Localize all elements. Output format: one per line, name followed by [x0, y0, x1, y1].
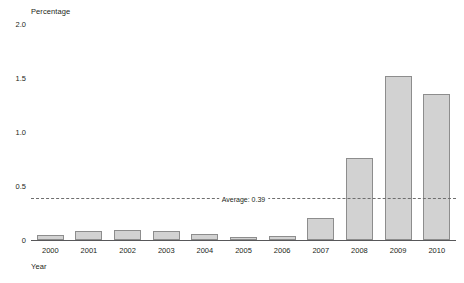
average-line: Average: 0.39	[31, 198, 456, 199]
bar	[423, 94, 450, 240]
bar-slot: 2003	[147, 24, 186, 240]
bar	[153, 231, 180, 240]
x-axis-tick-label: 2002	[119, 246, 136, 255]
bar-slot: 2007	[301, 24, 340, 240]
y-axis-tick-label: 0	[22, 236, 31, 245]
bar-chart: Percentage 00.51.01.52.0 200020012002200…	[0, 0, 464, 283]
x-axis-line	[31, 240, 456, 241]
bar-slot: 2006	[263, 24, 302, 240]
bar	[346, 158, 373, 240]
bar	[385, 76, 412, 240]
y-axis-tick-label: 0.5	[16, 182, 31, 191]
bar	[114, 230, 141, 240]
x-axis-tick-label: 2003	[158, 246, 175, 255]
x-axis-tick-label: 2005	[235, 246, 252, 255]
x-axis-tick-label: 2010	[428, 246, 445, 255]
y-axis-tick-label: 1.0	[16, 128, 31, 137]
x-axis-tick-label: 2008	[351, 246, 368, 255]
bar	[191, 234, 218, 240]
y-axis-title: Percentage	[31, 7, 70, 16]
bar-slot: 2005	[224, 24, 263, 240]
average-line-label: Average: 0.39	[219, 195, 268, 202]
x-axis-tick-label: 2009	[390, 246, 407, 255]
bar-slot: 2000	[31, 24, 70, 240]
x-axis-tick-label: 2001	[81, 246, 98, 255]
x-axis-title: Year	[31, 262, 47, 271]
x-axis-tick-label: 2004	[197, 246, 214, 255]
bar	[230, 237, 257, 240]
bar	[75, 231, 102, 240]
y-axis-tick-label: 1.5	[16, 74, 31, 83]
bar	[307, 218, 334, 240]
bar-slot: 2009	[379, 24, 418, 240]
bar-slot: 2001	[70, 24, 109, 240]
bar-slot: 2004	[186, 24, 225, 240]
x-axis-tick-label: 2000	[42, 246, 59, 255]
plot-area: 00.51.01.52.0 20002001200220032004200520…	[31, 24, 456, 240]
bar-slot: 2010	[417, 24, 456, 240]
x-axis-tick-label: 2007	[312, 246, 329, 255]
x-axis-tick-label: 2006	[274, 246, 291, 255]
y-axis-tick-label: 2.0	[16, 20, 31, 29]
bar-slot: 2008	[340, 24, 379, 240]
bar	[37, 235, 64, 240]
bar-slot: 2002	[108, 24, 147, 240]
bar	[269, 236, 296, 240]
bar-series: 2000200120022003200420052006200720082009…	[31, 24, 456, 240]
